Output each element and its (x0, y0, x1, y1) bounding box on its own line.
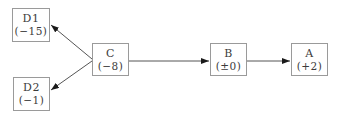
node-c-label: C (106, 48, 115, 60)
node-a: A (+2) (291, 43, 328, 76)
edge-c-to-d2 (51, 61, 92, 90)
edges-layer (0, 0, 341, 118)
node-d1-value: (−15) (15, 25, 48, 37)
node-c: C (−8) (92, 43, 129, 76)
node-d1: D1 (−15) (12, 8, 50, 42)
node-d2-label: D2 (23, 82, 40, 94)
node-a-label: A (305, 48, 313, 60)
node-d1-label: D1 (23, 13, 40, 25)
diagram-canvas: D1 (−15) D2 (−1) C (−8) B (±0) A (+2) (0, 0, 341, 118)
node-b-label: B (224, 48, 233, 60)
node-d2-value: (−1) (19, 94, 45, 106)
node-b: B (±0) (210, 43, 247, 76)
node-a-value: (+2) (297, 60, 323, 72)
node-d2: D2 (−1) (13, 77, 50, 111)
node-c-value: (−8) (98, 60, 124, 72)
node-b-value: (±0) (216, 60, 242, 72)
edge-c-to-d1 (51, 25, 92, 59)
